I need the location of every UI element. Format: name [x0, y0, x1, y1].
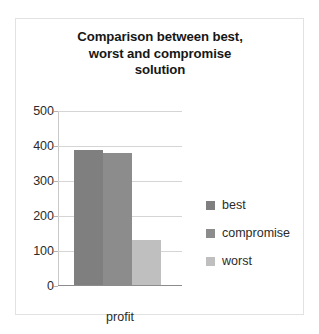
legend-swatch-compromise-icon — [206, 229, 215, 238]
bar-worst[interactable] — [132, 240, 161, 286]
plot-area — [58, 111, 182, 286]
legend-item-best[interactable]: best — [206, 191, 319, 219]
y-tick-mark-500 — [54, 111, 58, 112]
chart-title: Comparison between best, worst and compr… — [40, 29, 280, 79]
legend-label-compromise: compromise — [222, 226, 290, 240]
legend-label-worst: worst — [222, 254, 252, 268]
y-tick-mark-400 — [54, 146, 58, 147]
y-axis-line — [58, 111, 59, 286]
chart-container: Comparison between best, worst and compr… — [15, 18, 304, 315]
y-tick-label-300: 300 — [20, 174, 54, 188]
bar-compromise[interactable] — [103, 153, 132, 285]
y-tick-mark-300 — [54, 181, 58, 182]
gridline-400 — [58, 146, 182, 147]
chart-title-line-2: worst and compromise — [40, 46, 280, 63]
legend-swatch-best-icon — [206, 201, 215, 210]
legend-item-worst[interactable]: worst — [206, 247, 319, 275]
y-tick-label-200: 200 — [20, 209, 54, 223]
y-tick-mark-200 — [54, 216, 58, 217]
chart-title-line-1: Comparison between best, — [40, 29, 280, 46]
legend-label-best: best — [222, 198, 246, 212]
legend-swatch-worst-icon — [206, 257, 215, 266]
y-tick-label-0: 0 — [20, 279, 54, 293]
y-tick-mark-100 — [54, 251, 58, 252]
y-tick-label-100: 100 — [20, 244, 54, 258]
y-tick-label-500: 500 — [20, 104, 54, 118]
y-tick-label-400: 400 — [20, 139, 54, 153]
bar-best[interactable] — [74, 150, 103, 285]
x-axis-line — [58, 285, 182, 286]
legend-item-compromise[interactable]: compromise — [206, 219, 319, 247]
y-axis-tick-labels: 500 400 300 200 100 0 — [16, 111, 54, 286]
x-axis-category-label: profit — [58, 310, 182, 324]
chart-legend: best compromise worst — [206, 191, 319, 275]
chart-title-line-3: solution — [40, 62, 280, 79]
y-tick-mark-0 — [54, 286, 58, 287]
gridline-500 — [58, 111, 182, 112]
